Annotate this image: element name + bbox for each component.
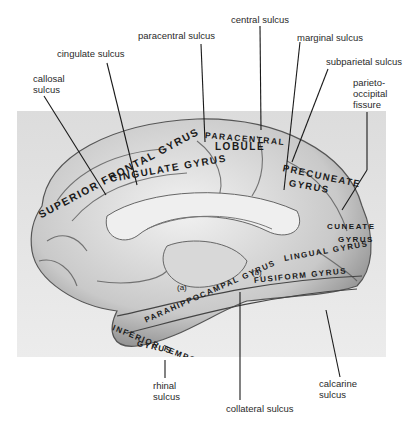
callout-subparietal-sulcus: subparietal sulcus [326,56,402,67]
callout-cingulate-sulcus: cingulate sulcus [57,48,125,59]
callout-marginal-sulcus: marginal sulcus [297,32,363,43]
callout-collateral-sulcus: collateral sulcus [226,403,294,414]
callout-parieto-occipital-fissure: parieto- occipital fissure [353,77,387,110]
callout-paracentral-sulcus: paracentral sulcus [138,30,215,41]
callout-central-sulcus: central sulcus [231,14,289,25]
callout-rhinal-sulcus: rhinal sulcus [153,380,180,402]
callout-calcarine-sulcus: calcarine sulcus [319,378,357,400]
callout-callosal-sulcus: callosal sulcus [33,73,65,95]
